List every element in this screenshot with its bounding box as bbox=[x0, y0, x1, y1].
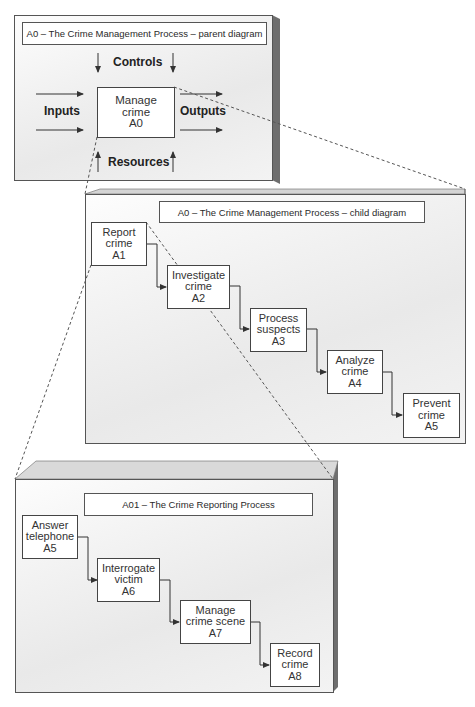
activity-id: A0 bbox=[129, 118, 143, 130]
activity-box-a5-answer[interactable]: Answer telephone A5 bbox=[22, 515, 78, 559]
activity-box-a7[interactable]: Manage crime scene A7 bbox=[180, 600, 251, 644]
activity-box-a8[interactable]: Record crime A8 bbox=[270, 643, 320, 687]
activity-box-a2[interactable]: Investigate crime A2 bbox=[167, 265, 230, 309]
activity-id: A8 bbox=[288, 671, 301, 683]
inputs-label: Inputs bbox=[44, 104, 80, 118]
activity-id: A6 bbox=[122, 586, 135, 598]
child-diagram-title: A0 – The Crime Management Process – chil… bbox=[159, 201, 425, 223]
activity-id: A1 bbox=[112, 250, 125, 262]
grandchild-diagram-title: A01 – The Crime Reporting Process bbox=[84, 493, 313, 516]
activity-box-a5[interactable]: Prevent crime A5 bbox=[403, 393, 460, 438]
activity-id: A7 bbox=[209, 628, 222, 640]
controls-label: Controls bbox=[113, 55, 162, 69]
activity-box-a3[interactable]: Process suspects A3 bbox=[250, 308, 307, 352]
activity-id: A3 bbox=[272, 336, 285, 348]
outputs-label: Outputs bbox=[180, 104, 226, 118]
activity-id: A5 bbox=[43, 543, 56, 555]
parent-diagram-title: A0 – The Crime Management Process – pare… bbox=[22, 22, 267, 45]
activity-box-a0[interactable]: Manage crime A0 bbox=[97, 87, 175, 138]
activity-id: A4 bbox=[348, 378, 361, 390]
activity-box-a1[interactable]: Report crime A1 bbox=[91, 222, 147, 266]
activity-id: A5 bbox=[425, 421, 438, 433]
activity-box-a4[interactable]: Analyze crime A4 bbox=[327, 350, 383, 394]
activity-box-a6[interactable]: Interrogate victim A6 bbox=[97, 558, 160, 602]
resources-label: Resources bbox=[108, 155, 169, 169]
activity-id: A2 bbox=[192, 293, 205, 305]
